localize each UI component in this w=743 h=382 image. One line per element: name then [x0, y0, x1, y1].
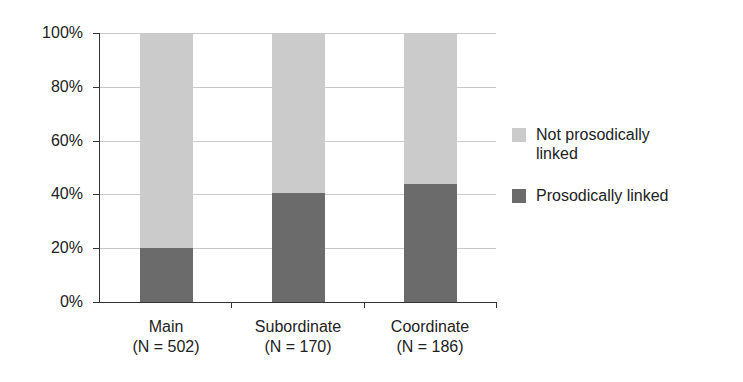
- bar-segment-linked: [140, 248, 193, 302]
- x-label-main: Main (N = 502): [100, 317, 232, 357]
- x-tick: [364, 302, 365, 308]
- legend-item-not-linked: Not prosodically linked: [512, 125, 650, 163]
- y-tick-label: 0%: [23, 294, 83, 310]
- legend-label: linked: [536, 144, 650, 163]
- bar-main: [140, 33, 193, 302]
- category-count: (N = 186): [364, 337, 496, 357]
- category-count: (N = 502): [100, 337, 232, 357]
- category-name: Subordinate: [232, 317, 364, 337]
- bar-segment-not-linked: [140, 33, 193, 248]
- x-axis: [99, 302, 496, 303]
- legend-label: Prosodically linked: [536, 186, 669, 205]
- x-tick: [496, 302, 497, 308]
- x-tick: [231, 302, 232, 308]
- y-tick: [93, 87, 99, 88]
- bar-coordinate: [404, 33, 457, 302]
- legend-label: Not prosodically: [536, 125, 650, 144]
- y-tick-label: 60%: [23, 133, 83, 149]
- y-tick-label: 80%: [23, 79, 83, 95]
- y-tick: [93, 248, 99, 249]
- y-tick-label: 100%: [23, 25, 83, 41]
- x-label-coordinate: Coordinate (N = 186): [364, 317, 496, 357]
- y-tick-label: 40%: [23, 186, 83, 202]
- bar-segment-not-linked: [272, 33, 325, 193]
- category-name: Coordinate: [364, 317, 496, 337]
- category-count: (N = 170): [232, 337, 364, 357]
- y-tick: [93, 33, 99, 34]
- legend-swatch: [512, 189, 526, 203]
- y-axis: [99, 33, 100, 303]
- legend-item-linked: Prosodically linked: [512, 186, 669, 205]
- bar-segment-not-linked: [404, 33, 457, 184]
- category-name: Main: [100, 317, 232, 337]
- y-tick-label: 20%: [23, 240, 83, 256]
- legend-swatch: [512, 128, 526, 142]
- bar-segment-linked: [404, 184, 457, 302]
- bar-subordinate: [272, 33, 325, 302]
- bar-segment-linked: [272, 193, 325, 302]
- y-tick: [93, 194, 99, 195]
- y-tick: [93, 141, 99, 142]
- x-label-subordinate: Subordinate (N = 170): [232, 317, 364, 357]
